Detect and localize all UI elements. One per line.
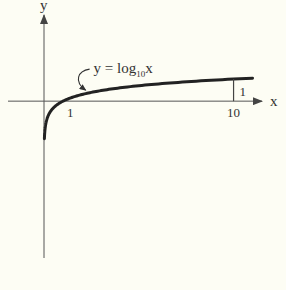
equation-main: y = log [94,60,137,76]
log-graph: x y 110 1 y = log10x [0,0,286,290]
x-axis-label: x [270,93,278,109]
y-axis-label: y [40,0,48,13]
height-label: 1 [240,84,247,99]
x-tick-labels: 110 [67,105,240,120]
x-tick-label: 10 [227,105,240,120]
equation-label: y = log10x [94,60,154,79]
annotation-arrow-icon [78,69,89,90]
x-tick-label: 1 [67,105,74,120]
equation-suffix: x [145,60,153,76]
log-curve [44,78,252,139]
